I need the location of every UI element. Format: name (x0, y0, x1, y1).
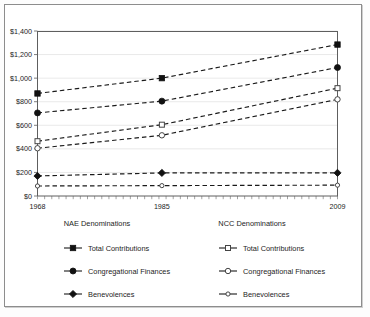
plot-area-wrapper: $0$200$400$600$800$1,000$1,200$1,400 196… (0, 0, 370, 317)
data-point-marker-filled-square (35, 91, 40, 96)
line-chart-svg: $0$200$400$600$800$1,000$1,200$1,400 196… (0, 0, 370, 317)
y-axis-tick-label: $1,000 (10, 74, 32, 83)
x-axis-tick-labels-group: 196819852009 (30, 202, 346, 211)
x-axis-tick-label: 1968 (30, 202, 46, 211)
data-point-marker-filled-diamond (334, 169, 341, 176)
legend-item[interactable]: Benevolences (64, 290, 135, 299)
legend-item-label: Benevolences (243, 290, 290, 299)
legend-title-ncc: NCC Denominations (218, 219, 286, 228)
data-point-marker-filled-square (335, 42, 340, 47)
chart-figure: $0$200$400$600$800$1,000$1,200$1,400 196… (0, 0, 370, 317)
data-point-marker-filled-circle (70, 268, 76, 274)
legend-item[interactable]: Total Contributions (219, 244, 305, 253)
y-axis-tick-label: $200 (16, 168, 32, 177)
series-line (38, 45, 338, 94)
data-point-marker-filled-diamond (69, 290, 76, 297)
y-axis-tick-label: $600 (16, 121, 32, 130)
legend-group: NAE DenominationsTotal ContributionsCong… (64, 219, 326, 299)
data-point-marker-filled-circle (159, 98, 165, 104)
y-axis-tick-label: $400 (16, 144, 32, 153)
data-point-marker-hollow-circle (225, 268, 230, 273)
data-point-marker-filled-diamond (34, 172, 41, 179)
legend-item[interactable]: Benevolences (219, 290, 290, 299)
data-point-marker-hollow-square (35, 139, 40, 144)
data-point-marker-filled-square (70, 245, 75, 250)
data-point-marker-filled-circle (35, 110, 41, 116)
series-lines-group (38, 45, 338, 186)
data-point-marker-hollow-square (226, 246, 231, 251)
axis-lines-group (38, 31, 339, 196)
y-axis-tick-labels-group: $0$200$400$600$800$1,000$1,200$1,400 (10, 27, 32, 201)
legend-item-label: Total Contributions (243, 244, 305, 253)
data-point-marker-hollow-circle (35, 146, 40, 151)
legend-item-label: Benevolences (88, 290, 135, 299)
x-axis-tick-label: 1985 (154, 202, 170, 211)
y-axis-tick-label: $800 (16, 97, 32, 106)
legend-item[interactable]: Congregational Finances (64, 267, 170, 276)
data-point-marker-hollow-square (159, 122, 164, 127)
data-point-marker-hollow-small-circle (226, 292, 230, 296)
x-axis-tick-label: 2009 (330, 202, 346, 211)
legend-title-nae: NAE Denominations (64, 219, 131, 228)
series-line (38, 99, 338, 148)
data-point-marker-hollow-small-circle (35, 184, 39, 188)
data-point-marker-filled-circle (335, 65, 341, 71)
y-axis-tick-label: $1,400 (10, 27, 32, 36)
data-point-marker-hollow-circle (159, 133, 164, 138)
data-point-marker-hollow-square (335, 86, 340, 91)
legend-item[interactable]: Congregational Finances (219, 267, 325, 276)
y-axis-tick-label: $1,200 (10, 50, 32, 59)
data-point-marker-hollow-small-circle (335, 183, 339, 187)
data-point-marker-filled-diamond (158, 169, 165, 176)
legend-item-label: Total Contributions (88, 244, 150, 253)
data-point-marker-hollow-small-circle (160, 184, 164, 188)
series-line (38, 185, 338, 186)
series-line (38, 68, 338, 113)
legend-item[interactable]: Total Contributions (64, 244, 150, 253)
data-point-marker-filled-square (159, 75, 164, 80)
y-axis-tick-label: $0 (24, 192, 32, 201)
legend-item-label: Congregational Finances (243, 267, 325, 276)
legend-item-label: Congregational Finances (88, 267, 170, 276)
gridlines-group (38, 31, 338, 172)
series-markers-group (34, 42, 341, 188)
series-line (38, 173, 338, 176)
data-point-marker-hollow-circle (335, 97, 340, 102)
